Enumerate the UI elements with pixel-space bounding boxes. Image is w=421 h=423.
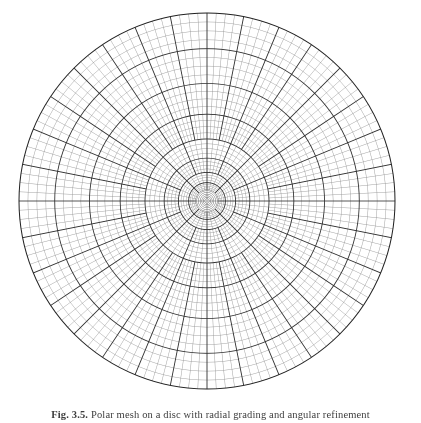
figure-caption: Fig. 3.5. Polar mesh on a disc with radi… [0, 408, 421, 421]
figure-container: Fig. 3.5. Polar mesh on a disc with radi… [0, 0, 421, 423]
figure-number-label: Fig. 3.5. [51, 409, 88, 420]
figure-caption-text: Polar mesh on a disc with radial grading… [91, 409, 370, 420]
polar-mesh-plot [0, 0, 421, 423]
